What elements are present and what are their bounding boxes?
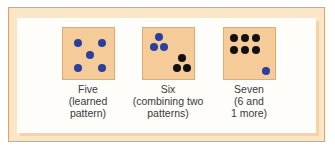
diagram-panel: Five (learned pattern) Six (combining tw…	[17, 18, 316, 133]
blue-dot-icon	[86, 51, 94, 59]
caption-title: Five	[43, 83, 133, 95]
blue-dot-icon	[150, 43, 158, 51]
caption-note: patterns)	[123, 107, 213, 119]
figure-seven: Seven (6 and 1 more)	[204, 27, 294, 119]
diagram-frame: Five (learned pattern) Six (combining tw…	[8, 7, 325, 142]
black-dot-icon	[183, 64, 191, 72]
figure-five: Five (learned pattern)	[43, 27, 133, 119]
dot-pattern-tile-five	[62, 27, 115, 80]
black-dot-icon	[178, 54, 186, 62]
caption-note: pattern)	[43, 107, 133, 119]
black-dot-icon	[252, 34, 260, 42]
caption-note: (6 and	[204, 95, 294, 107]
dot-pattern-tile-seven	[223, 27, 276, 80]
black-dot-icon	[230, 34, 238, 42]
caption-note: 1 more)	[204, 107, 294, 119]
blue-dot-icon	[98, 64, 106, 72]
black-dot-icon	[173, 64, 181, 72]
dot-pattern-tile-six	[142, 27, 195, 80]
black-dot-icon	[241, 34, 249, 42]
black-dot-icon	[230, 46, 238, 54]
blue-dot-icon	[160, 43, 168, 51]
caption-six: Six (combining two patterns)	[123, 83, 213, 119]
blue-dot-icon	[74, 64, 82, 72]
black-dot-icon	[241, 46, 249, 54]
figure-six: Six (combining two patterns)	[123, 27, 213, 119]
blue-dot-icon	[262, 67, 270, 75]
blue-dot-icon	[155, 33, 163, 41]
caption-seven: Seven (6 and 1 more)	[204, 83, 294, 119]
caption-title: Six	[123, 83, 213, 95]
blue-dot-icon	[98, 39, 106, 47]
blue-dot-icon	[74, 39, 82, 47]
caption-title: Seven	[204, 83, 294, 95]
caption-note: (learned	[43, 95, 133, 107]
caption-five: Five (learned pattern)	[43, 83, 133, 119]
black-dot-icon	[252, 46, 260, 54]
caption-note: (combining two	[123, 95, 213, 107]
